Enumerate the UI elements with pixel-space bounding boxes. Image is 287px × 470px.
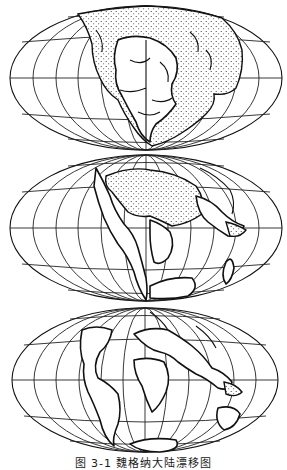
- eocene-landmasses: [94, 168, 246, 300]
- map-panel-middle: [0, 150, 287, 305]
- figure-caption: 图 3-1 魏格纳大陆漂移图: [0, 454, 287, 470]
- modern-continents: [80, 312, 242, 452]
- continental-drift-figure: 图 3-1 魏格纳大陆漂移图: [0, 0, 287, 470]
- map-panel-bottom: [0, 303, 287, 455]
- map-panel-top: [0, 0, 287, 155]
- pangaea-landmass: [78, 6, 242, 146]
